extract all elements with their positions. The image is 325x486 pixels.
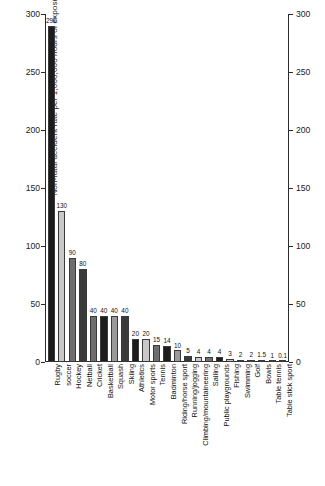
x-label-skiing: Skiing <box>128 364 135 384</box>
bar-bowls[interactable] <box>258 360 265 362</box>
x-label-text: Athletics <box>138 364 145 392</box>
y-tick-label-left-250: 250 <box>26 68 40 77</box>
bar-value-label: 2 <box>239 352 243 358</box>
y-tick-label-right-300: 300 <box>296 10 310 19</box>
x-label-badminton: Badminton <box>170 364 177 399</box>
x-label-cricket: Cricket <box>96 364 103 387</box>
bar-slot: 0.1 <box>279 14 286 362</box>
x-label-text: Fishing <box>233 364 240 388</box>
y-tick-mark-right-150 <box>289 188 293 189</box>
bar-badminton[interactable] <box>163 346 170 362</box>
bar-slot: 40 <box>121 14 128 362</box>
bar-slot: 10 <box>174 14 181 362</box>
bar-slot: 90 <box>69 14 76 362</box>
bar-cricket[interactable] <box>90 316 97 362</box>
x-label-text: Table stick sport <box>286 364 293 417</box>
y-tick-label-left-150: 150 <box>26 184 40 193</box>
bar-slot: 14 <box>163 14 170 362</box>
bar-hockey[interactable] <box>69 258 76 362</box>
y-tick-label-right-50: 50 <box>296 300 306 309</box>
bar-swimming[interactable] <box>237 360 244 362</box>
bar-riding-horse-sport[interactable] <box>174 350 181 362</box>
y-tick-label-right-250: 250 <box>296 68 310 77</box>
x-label-text: Squash <box>117 364 124 389</box>
bar-slot: 4 <box>195 14 202 362</box>
x-label-swimming: Swimming <box>244 364 251 398</box>
y-tick-mark-right-50 <box>289 304 293 305</box>
bar-slot: 290 <box>48 14 55 362</box>
bar-fishing[interactable] <box>226 359 233 362</box>
bar-climbing-mountaineering[interactable] <box>195 357 202 362</box>
x-label-running-jogging: Running/jogging <box>191 364 198 417</box>
bar-slot: 1 <box>269 14 276 362</box>
y-tick-label-right-0: 0 <box>296 358 301 367</box>
y-tick-label-left-100: 100 <box>26 242 40 251</box>
bar-slot: 2 <box>237 14 244 362</box>
bar-value-label: 20 <box>142 331 149 337</box>
bar-slot: 5 <box>184 14 191 362</box>
bar-slot: 20 <box>132 14 139 362</box>
bar-value-label: 20 <box>132 331 139 337</box>
x-label-text: Skiing <box>128 364 135 384</box>
bar-slot: 80 <box>79 14 86 362</box>
bar-soccer[interactable] <box>58 211 65 362</box>
x-label-climbing-mountaineering: Climbing/mountaineering <box>202 364 209 446</box>
y-tick-mark-left-250 <box>41 72 45 73</box>
bar-slot: 40 <box>90 14 97 362</box>
bar-slot: 15 <box>153 14 160 362</box>
x-label-text: Table tennis <box>275 364 282 403</box>
bar-golf[interactable] <box>247 360 254 362</box>
y-tick-mark-left-100 <box>41 246 45 247</box>
bar-squash[interactable] <box>111 316 118 362</box>
x-label-text: Cricket <box>96 364 103 387</box>
x-label-riding-horse-sport: Riding/horse sport <box>181 364 188 424</box>
bar-value-label: 1 <box>270 353 274 359</box>
bar-value-label: 2 <box>249 352 253 358</box>
bar-value-label: 80 <box>79 261 86 267</box>
bar-slot: 20 <box>142 14 149 362</box>
x-label-soccer: soccer <box>65 364 72 386</box>
bar-tennis[interactable] <box>153 345 160 362</box>
x-label-table-tennis: Table tennis <box>275 364 282 403</box>
bar-sailing[interactable] <box>205 357 212 362</box>
x-label-public-playgrounds: Public playgrounds <box>223 364 230 426</box>
bar-basketball[interactable] <box>100 316 107 362</box>
x-label-text: Golf <box>254 364 261 378</box>
x-label-text: Public playgrounds <box>223 364 230 426</box>
y-tick-label-left-50: 50 <box>30 300 40 309</box>
bar-value-label: 40 <box>111 308 118 314</box>
y-tick-mark-left-200 <box>41 130 45 131</box>
bar-value-label: 290 <box>46 18 57 24</box>
bar-netball[interactable] <box>79 269 86 362</box>
x-label-text: Bowls <box>265 364 272 384</box>
y-tick-label-left-0: 0 <box>35 358 40 367</box>
bar-value-label: 14 <box>163 338 170 344</box>
plot-area: 290130908040404040202015141054443221.510… <box>46 14 288 362</box>
y-axis-left-ticklabels: 050100150200250300 <box>14 0 40 355</box>
y-tick-mark-right-200 <box>289 130 293 131</box>
y-tick-label-left-200: 200 <box>26 126 40 135</box>
y-tick-mark-left-150 <box>41 188 45 189</box>
x-label-text: soccer <box>65 364 72 386</box>
bar-slot: 2 <box>247 14 254 362</box>
bar-public-playgrounds[interactable] <box>216 357 223 362</box>
x-label-text: Netball <box>86 364 93 387</box>
x-label-sailing: Sailing <box>212 364 219 386</box>
bar-slot: 4 <box>205 14 212 362</box>
bar-table-stick-sport[interactable] <box>279 360 286 362</box>
bar-slot: 40 <box>100 14 107 362</box>
x-label-athletics: Athletics <box>138 364 145 392</box>
bar-table-tennis[interactable] <box>269 360 276 362</box>
x-label-table-stick-sport: Table stick sport <box>286 364 293 417</box>
bar-rugby[interactable] <box>48 26 55 362</box>
bar-skiing[interactable] <box>121 316 128 362</box>
x-label-netball: Netball <box>86 364 93 387</box>
bar-running-jogging[interactable] <box>184 356 191 362</box>
x-label-text: Tennis <box>159 364 166 385</box>
x-label-fishing: Fishing <box>233 364 240 388</box>
x-label-text: Motor sports <box>149 364 156 405</box>
bar-value-label: 4 <box>197 349 201 355</box>
bar-athletics[interactable] <box>132 339 139 362</box>
bar-motor-sports[interactable] <box>142 339 149 362</box>
bar-slot: 3 <box>226 14 233 362</box>
